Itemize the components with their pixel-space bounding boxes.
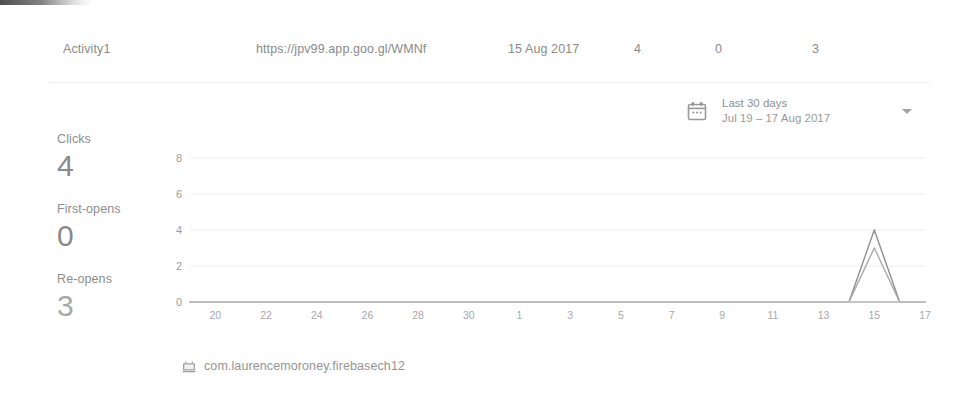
x-axis-tick: 22	[260, 309, 272, 321]
y-axis-tick: 4	[176, 224, 182, 236]
x-axis-tick: 24	[311, 309, 323, 321]
metric-re-opens-label: Re-opens	[57, 271, 167, 287]
analytics-chart[interactable]: 024682022242628301357911131517	[170, 150, 940, 340]
calendar-icon	[686, 100, 708, 122]
x-axis-tick: 17	[919, 309, 931, 321]
x-axis-tick: 20	[210, 309, 222, 321]
link-name[interactable]: Activity1	[63, 38, 110, 60]
date-range-value: Jul 19 – 17 Aug 2017	[722, 112, 830, 124]
x-axis-tick: 9	[719, 309, 725, 321]
scan-artifact	[0, 0, 92, 5]
x-axis-tick: 26	[362, 309, 374, 321]
date-range-text: Last 30 days Jul 19 – 17 Aug 2017	[722, 96, 830, 126]
y-axis-tick: 8	[176, 152, 182, 164]
link-first-opens-count: 0	[715, 38, 722, 60]
metrics-panel: Clicks 4 First-opens 0 Re-opens 3	[57, 131, 167, 341]
x-axis-tick: 7	[669, 309, 675, 321]
date-range-preset: Last 30 days	[722, 97, 787, 109]
date-range-selector[interactable]: Last 30 days Jul 19 – 17 Aug 2017	[686, 96, 916, 132]
x-axis-tick: 3	[567, 309, 573, 321]
y-axis-tick: 6	[176, 188, 182, 200]
y-axis-tick: 0	[176, 296, 182, 308]
link-clicks-count: 4	[634, 38, 641, 60]
row-divider	[50, 82, 930, 83]
metric-re-opens-value: 3	[57, 287, 167, 325]
metric-clicks: Clicks 4	[57, 131, 167, 185]
x-axis-tick: 30	[463, 309, 475, 321]
metric-clicks-value: 4	[57, 147, 167, 185]
x-axis-tick: 28	[412, 309, 424, 321]
metric-clicks-label: Clicks	[57, 131, 167, 147]
link-date: 15 Aug 2017	[508, 38, 579, 60]
x-axis-tick: 15	[868, 309, 880, 321]
app-package-name: com.laurencemoroney.firebasech12	[204, 357, 405, 375]
x-axis-tick: 13	[818, 309, 830, 321]
x-axis-tick: 11	[767, 309, 778, 321]
chart-series-re-opens	[190, 248, 925, 302]
chevron-down-icon[interactable]	[902, 109, 912, 114]
dynamic-link-summary-row[interactable]: Activity1 https://jpv99.app.goo.gl/WMNf …	[0, 38, 960, 60]
metric-re-opens: Re-opens 3	[57, 271, 167, 325]
link-url[interactable]: https://jpv99.app.goo.gl/WMNf	[256, 38, 426, 60]
x-axis-tick: 1	[517, 309, 523, 321]
metric-first-opens: First-opens 0	[57, 201, 167, 255]
chart-svg: 024682022242628301357911131517	[170, 150, 940, 340]
metric-first-opens-label: First-opens	[57, 201, 167, 217]
metric-first-opens-value: 0	[57, 217, 167, 255]
link-re-opens-count: 3	[812, 38, 819, 60]
android-app-icon	[182, 359, 196, 372]
y-axis-tick: 2	[176, 260, 182, 272]
x-axis-tick: 5	[618, 309, 624, 321]
